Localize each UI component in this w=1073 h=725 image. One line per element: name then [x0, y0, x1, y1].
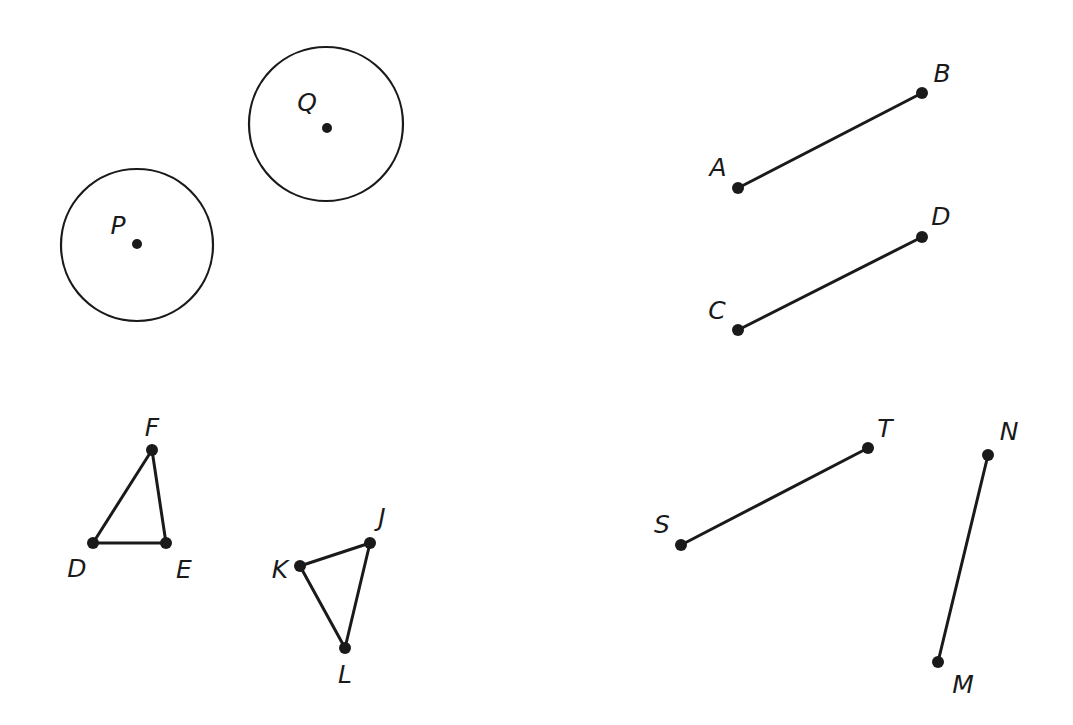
triangle-def-label-f: F — [145, 413, 160, 442]
circle-q-label: Q — [297, 88, 317, 117]
segment-ab-line — [738, 93, 922, 188]
triangle-def-vertex-e — [160, 537, 172, 549]
triangle-jkl-label-j: J — [373, 503, 385, 532]
segment-st-label-t: T — [877, 414, 894, 443]
segment-mn: MN — [932, 417, 1019, 699]
segment-ab: AB — [707, 59, 950, 194]
segment-ab-label-a: A — [707, 153, 726, 182]
segment-ab-label-b: B — [933, 59, 950, 88]
geometry-figure-svg: PQABCDSTMNDEFJKL — [0, 0, 1073, 725]
circle-q-center-point — [322, 123, 332, 133]
triangle-jkl-label-k: K — [272, 555, 291, 584]
triangle-def-vertex-d — [87, 537, 99, 549]
triangle-jkl-label-l: L — [338, 660, 352, 689]
segment-cd-endpoint-d — [916, 231, 928, 243]
segment-ab-endpoint-b — [916, 87, 928, 99]
circle-p-center-point — [132, 239, 142, 249]
circle-p: P — [61, 169, 213, 321]
segment-mn-endpoint-n — [982, 449, 994, 461]
segment-cd-line — [738, 237, 922, 330]
circle-p-label: P — [110, 211, 126, 240]
segment-mn-line — [938, 455, 988, 662]
triangle-def-outline — [93, 450, 166, 543]
triangle-def-vertex-f — [146, 444, 158, 456]
triangle-jkl-vertex-l — [339, 642, 351, 654]
segment-st-label-s: S — [654, 510, 670, 539]
triangle-jkl-vertex-k — [294, 560, 306, 572]
segment-st-endpoint-t — [862, 442, 874, 454]
triangle-def-label-e: E — [176, 555, 192, 584]
circle-q: Q — [249, 47, 403, 201]
segment-mn-endpoint-m — [932, 656, 944, 668]
triangle-jkl-outline — [300, 543, 370, 648]
segment-cd-label-d: D — [931, 202, 950, 231]
triangle-def-label-d: D — [67, 554, 86, 583]
segment-cd: CD — [708, 202, 950, 336]
geometry-figure-canvas: PQABCDSTMNDEFJKL — [0, 0, 1073, 725]
segment-mn-label-m: M — [952, 670, 974, 699]
segment-mn-label-n: N — [1000, 417, 1019, 446]
triangle-def: DEF — [67, 413, 192, 584]
segment-ab-endpoint-a — [732, 182, 744, 194]
segment-cd-label-c: C — [708, 296, 726, 325]
segment-st: ST — [654, 414, 894, 551]
segment-cd-endpoint-c — [732, 324, 744, 336]
segment-st-endpoint-s — [675, 539, 687, 551]
triangle-jkl: JKL — [272, 503, 386, 689]
segment-st-line — [681, 448, 868, 545]
triangle-jkl-vertex-j — [364, 537, 376, 549]
